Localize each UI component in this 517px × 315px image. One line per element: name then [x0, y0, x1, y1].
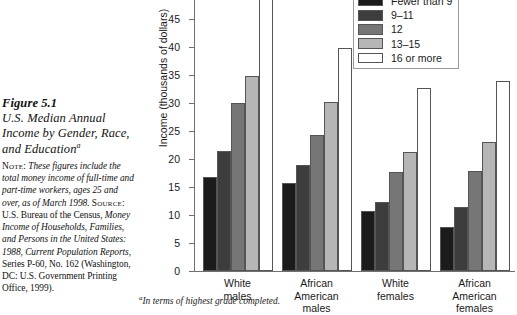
- y-axis-tick-label: 15: [168, 181, 180, 193]
- y-axis-tick: 40: [189, 47, 194, 48]
- y-axis-tick: 35: [189, 75, 194, 76]
- bar[interactable]: [417, 88, 431, 271]
- bar[interactable]: [259, 0, 273, 271]
- legend-item[interactable]: 16 or more: [358, 51, 452, 65]
- y-axis-tick-label: 45: [168, 13, 180, 25]
- y-axis-tick: 20: [189, 159, 194, 160]
- x-axis-group-label: Whitefemales: [377, 277, 414, 302]
- legend-label: Fewer than 9: [391, 0, 452, 7]
- legend-swatch: [358, 24, 383, 35]
- y-axis-tick: 15: [189, 187, 194, 188]
- note-label: Note:: [2, 161, 26, 171]
- legend-swatch: [358, 0, 383, 6]
- bar[interactable]: [296, 165, 310, 271]
- figure-note: Note: These figures include the total mo…: [2, 160, 135, 295]
- bar[interactable]: [361, 211, 375, 271]
- y-axis-tick-label: 5: [174, 237, 180, 249]
- figure-footnote: aIn terms of highest grade completed.: [139, 296, 280, 306]
- bar[interactable]: [440, 227, 454, 271]
- x-axis-group-label: AfricanAmericanmales: [294, 277, 338, 315]
- bar[interactable]: [389, 172, 403, 271]
- bar-group: Whitemales: [203, 0, 273, 271]
- legend-label: 12: [391, 23, 403, 35]
- y-axis-tick-label: 30: [168, 97, 180, 109]
- bar[interactable]: [203, 177, 217, 271]
- y-axis-tick: 10: [189, 215, 194, 216]
- bar[interactable]: [245, 76, 259, 271]
- bar[interactable]: [454, 207, 468, 271]
- y-axis-tick-label: 20: [168, 153, 180, 165]
- figure-number: Figure 5.1: [2, 96, 135, 111]
- x-axis-group-label: AfricanAmericanfemales: [452, 277, 496, 315]
- bar[interactable]: [375, 202, 389, 271]
- bar-group: AfricanAmericanmales: [282, 0, 352, 271]
- y-axis-tick: 25: [189, 131, 194, 132]
- chart-legend: Fewer than 99–111213–1516 or more: [353, 0, 459, 69]
- legend-swatch: [358, 53, 383, 64]
- figure-title-superscript: a: [77, 140, 81, 149]
- bar[interactable]: [231, 103, 245, 271]
- chart-figure: Income (thousands of dollars) 0510152025…: [135, 0, 517, 315]
- y-axis-tick-label: 25: [168, 125, 180, 137]
- y-axis-tick: 30: [189, 103, 194, 104]
- legend-swatch: [358, 10, 383, 21]
- legend-label: 9–11: [391, 9, 414, 21]
- legend-item[interactable]: 9–11: [358, 8, 452, 22]
- bar[interactable]: [468, 171, 482, 271]
- y-axis-title: Income (thousands of dollars): [157, 0, 169, 158]
- legend-label: 13–15: [391, 38, 420, 50]
- y-axis-tick: 45: [189, 19, 194, 20]
- figure-caption: Figure 5.1 U.S. Median Annual Income by …: [2, 96, 135, 295]
- y-axis-line: [194, 0, 195, 272]
- y-axis-tick-label: 10: [168, 209, 180, 221]
- footnote-text: In terms of highest grade completed.: [143, 296, 280, 306]
- bar[interactable]: [338, 48, 352, 271]
- legend-item[interactable]: Fewer than 9: [358, 0, 452, 8]
- bar[interactable]: [217, 151, 231, 271]
- bar[interactable]: [282, 183, 296, 271]
- source-label: Source:: [92, 198, 125, 208]
- y-axis-tick-label: 0: [174, 265, 180, 277]
- bar[interactable]: [482, 142, 496, 271]
- bar[interactable]: [324, 102, 338, 271]
- y-axis-tick-label: 40: [168, 41, 180, 53]
- source-text-first: U.S. Bureau of the Census,: [2, 210, 105, 220]
- legend-item[interactable]: 13–15: [358, 37, 452, 51]
- legend-label: 16 or more: [391, 52, 442, 64]
- chart-plot-area: 05101520253035404550 WhitemalesAfricanAm…: [194, 0, 510, 272]
- legend-item[interactable]: 12: [358, 22, 452, 36]
- bar[interactable]: [496, 81, 510, 271]
- legend-swatch: [358, 38, 383, 49]
- y-axis-tick: 5: [189, 243, 194, 244]
- y-axis-tick: 0: [189, 271, 194, 272]
- y-axis-tick-label: 35: [168, 69, 180, 81]
- bar[interactable]: [403, 152, 417, 271]
- bar[interactable]: [310, 135, 324, 271]
- figure-title: U.S. Median Annual Income by Gender, Rac…: [2, 111, 135, 157]
- figure-title-text: U.S. Median Annual Income by Gender, Rac…: [2, 111, 130, 156]
